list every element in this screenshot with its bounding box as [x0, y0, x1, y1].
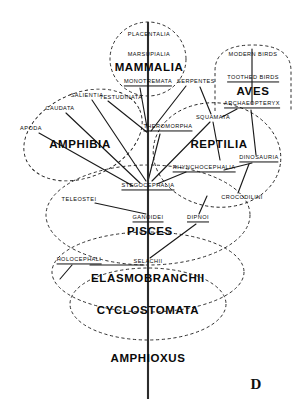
taxon-label-cyclostomata[interactable]: CYCLOSTOMATA [97, 305, 199, 317]
taxon-label-amphibia[interactable]: AMPHIBIA [49, 139, 111, 151]
taxon-label-mammalia[interactable]: MAMMALIA [115, 62, 184, 74]
b-dino-archaeo [251, 110, 256, 155]
taxon-label-squamata[interactable]: SQUAMATA [196, 115, 230, 121]
taxon-label-toothed-birds[interactable]: TOOTHED BIRDS [227, 75, 279, 82]
taxon-label-caudata[interactable]: CAUDATA [45, 106, 74, 112]
b-ganoidei-teleostei [95, 203, 146, 214]
taxon-label-stegocephalia[interactable]: STEGOCEPHALIA [121, 183, 174, 190]
taxon-label-apoda[interactable]: APODA [20, 126, 42, 132]
taxon-label-serpentes[interactable]: SERPENTES [177, 79, 215, 85]
taxon-label-marsupialia[interactable]: MARSUPIALIA [128, 52, 171, 58]
figure-panel-letter: D [251, 376, 262, 393]
taxon-label-dinosauria[interactable]: DINOSAURIA [239, 155, 278, 162]
taxon-label-salientia[interactable]: SALIENTIA [71, 93, 104, 99]
taxon-label-monotremata[interactable]: MONOTREMATA [124, 79, 172, 86]
b-holo-down [60, 265, 72, 279]
taxon-label-rhynchocephalia[interactable]: RHYNCHOCEPHALIA [173, 165, 236, 172]
group-amphibia [9, 71, 156, 198]
taxon-label-ganoidei[interactable]: GANOIDEI [133, 215, 164, 222]
phylogeny-diagram: PLACENTALIAMARSUPIALIAMAMMALIAMONOTREMAT… [0, 0, 294, 419]
b-dino-croc [238, 164, 249, 193]
taxon-label-testudinata[interactable]: TESTUDINATA [100, 95, 143, 101]
taxon-label-crocodilini[interactable]: CROCODILINI [221, 195, 263, 201]
taxon-label-archaeopteryx[interactable]: ARCHAEOPTERYX [224, 101, 280, 108]
taxon-label-elasmobranchii[interactable]: ELASMOBRANCHII [91, 273, 205, 285]
taxon-label-aves[interactable]: AVES [237, 86, 270, 98]
b-squamata-serpentes [200, 87, 211, 114]
taxon-label-holocephali[interactable]: HOLOCEPHALI [57, 257, 102, 264]
taxon-label-reptilia[interactable]: REPTILIA [190, 139, 247, 151]
taxon-label-theromorpha[interactable]: THEROMORPHA [143, 124, 192, 131]
taxon-label-modern-birds[interactable]: MODERN BIRDS [229, 52, 278, 58]
taxon-label-pisces[interactable]: PISCES [127, 226, 173, 238]
taxon-label-teleostei[interactable]: TELEOSTEI [62, 197, 97, 203]
taxon-label-placentalia[interactable]: PLACENTALIA [128, 32, 170, 38]
taxon-label-dipnoi[interactable]: DIPNOI [187, 215, 209, 222]
taxon-label-amphioxus[interactable]: AMPHIOXUS [110, 353, 185, 365]
taxon-label-selachii[interactable]: SELACHII [133, 259, 162, 265]
